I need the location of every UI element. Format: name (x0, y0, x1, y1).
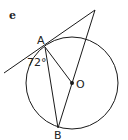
point-label-O: O (76, 78, 85, 91)
geometry-diagram: e A O B 72° (0, 0, 128, 140)
point-label-A: A (37, 34, 45, 47)
center-point-O (70, 81, 74, 85)
chord-AB (45, 47, 58, 128)
point-label-B: B (54, 129, 62, 140)
secant-line-TB (58, 10, 95, 128)
tangent-line (4, 10, 95, 73)
angle-label: 72° (27, 56, 47, 69)
part-label: e (9, 9, 16, 22)
radius-AO (45, 47, 72, 83)
